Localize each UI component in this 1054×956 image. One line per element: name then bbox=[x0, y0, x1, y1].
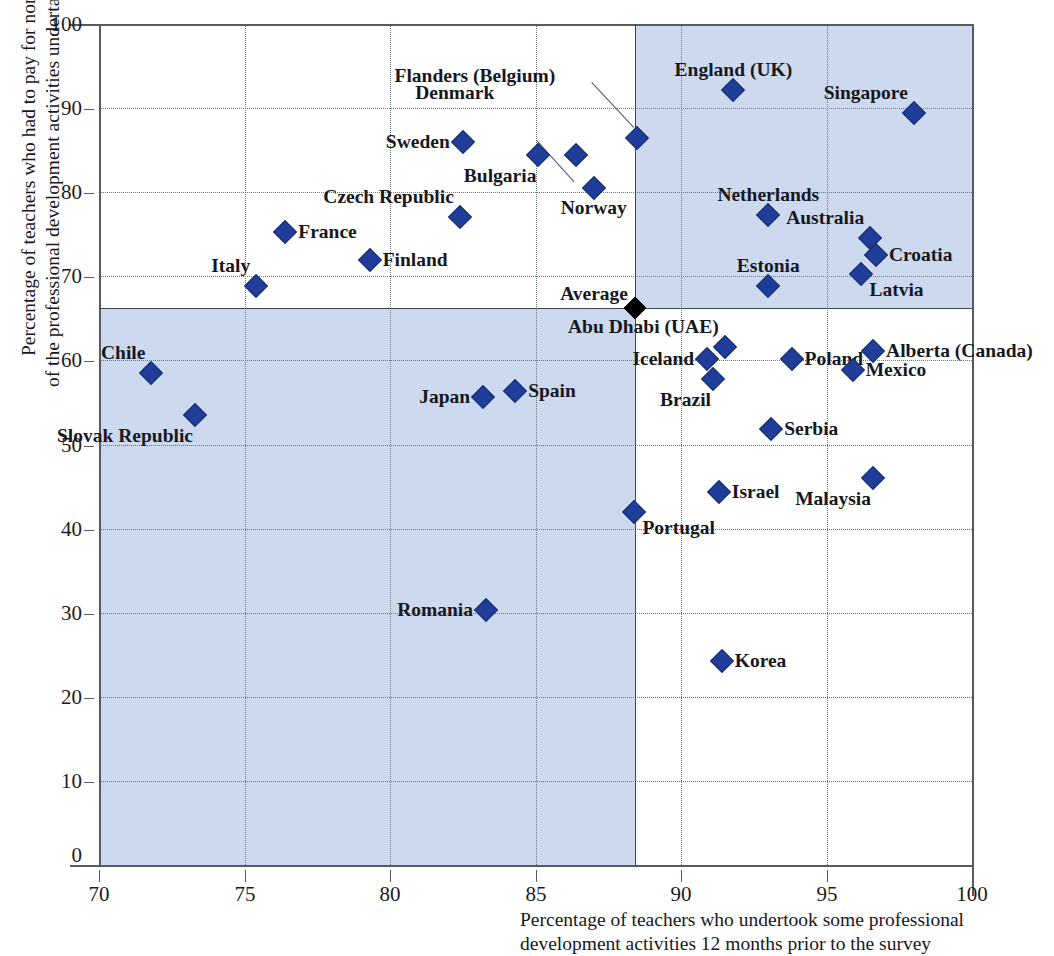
data-label-slovak-republic: Slovak Republic bbox=[57, 426, 193, 446]
y-axis-title-line1: Percentage of teachers who had to pay fo… bbox=[17, 0, 41, 356]
y-tick-30: 30 bbox=[20, 603, 82, 624]
y-tick-20-label: 20 bbox=[61, 685, 82, 709]
data-label-chile: Chile bbox=[101, 343, 145, 363]
data-label-spain: Spain bbox=[528, 381, 576, 401]
x-tick-70: 70 bbox=[59, 884, 139, 905]
x-tick-75: 75 bbox=[205, 884, 285, 905]
data-point-poland[interactable] bbox=[780, 347, 804, 371]
data-point-sweden[interactable] bbox=[451, 130, 475, 154]
data-label-portugal: Portugal bbox=[642, 518, 715, 538]
x-tick-95-label: 95 bbox=[817, 882, 838, 906]
data-point-france[interactable] bbox=[273, 220, 297, 244]
data-point-korea[interactable] bbox=[710, 649, 734, 673]
data-label-korea: Korea bbox=[735, 651, 787, 671]
y-axis-title-line2: of the professional development activiti… bbox=[41, 0, 65, 387]
data-label-france: France bbox=[298, 222, 356, 242]
data-label-czech-republic: Czech Republic bbox=[323, 188, 454, 208]
average-vertical-line bbox=[635, 24, 636, 865]
x-tick-90: 90 bbox=[641, 884, 721, 905]
y-tick-20: 20 bbox=[20, 687, 82, 708]
x-axis-title: Percentage of teachers who undertook som… bbox=[520, 908, 1020, 956]
data-label-latvia: Latvia bbox=[869, 280, 923, 300]
frame-right-line bbox=[972, 24, 974, 896]
axis-x-line bbox=[70, 865, 972, 867]
data-point-serbia[interactable] bbox=[759, 417, 783, 441]
data-label-romania: Romania bbox=[397, 600, 473, 620]
data-point-denmark[interactable] bbox=[564, 143, 588, 167]
data-label-japan: Japan bbox=[419, 388, 470, 408]
x-tick-100-label: 100 bbox=[956, 882, 988, 906]
data-point-malaysia[interactable] bbox=[861, 466, 885, 490]
data-label-bulgaria: Bulgaria bbox=[464, 166, 537, 186]
data-label-norway: Norway bbox=[561, 198, 627, 218]
x-tick-70-label: 70 bbox=[89, 882, 110, 906]
data-point-finland[interactable] bbox=[358, 248, 382, 272]
average-horizontal-line bbox=[99, 308, 972, 309]
y-tick-40-label: 40 bbox=[61, 517, 82, 541]
x-tick-90-label: 90 bbox=[671, 882, 692, 906]
x-tick-85: 85 bbox=[496, 884, 576, 905]
data-label-iceland: Iceland bbox=[632, 349, 694, 369]
frame-top-line bbox=[70, 24, 972, 26]
data-point-israel[interactable] bbox=[707, 480, 731, 504]
data-label-sweden: Sweden bbox=[386, 132, 450, 152]
data-label-england-uk: England (UK) bbox=[675, 61, 793, 81]
data-label-estonia: Estonia bbox=[737, 256, 800, 276]
data-label-abu-dhabi-uae: Abu Dhabi (UAE) bbox=[568, 317, 719, 337]
data-label-netherlands: Netherlands bbox=[717, 185, 819, 205]
data-label-mexico: Mexico bbox=[866, 360, 927, 380]
data-point-bulgaria[interactable] bbox=[526, 143, 550, 167]
leader-line-flanders bbox=[591, 82, 634, 128]
data-label-brazil: Brazil bbox=[660, 390, 711, 410]
data-label-malaysia: Malaysia bbox=[795, 489, 871, 509]
x-axis-title-line2: development activities 12 months prior t… bbox=[520, 932, 1020, 956]
data-label-israel: Israel bbox=[732, 483, 780, 503]
data-label-serbia: Serbia bbox=[784, 420, 838, 440]
y-tick-10-label: 10 bbox=[61, 769, 82, 793]
x-tick-80-label: 80 bbox=[380, 882, 401, 906]
data-point-czech-republic[interactable] bbox=[448, 205, 472, 229]
data-label-croatia: Croatia bbox=[889, 246, 953, 266]
y-tick-0: 0 bbox=[20, 845, 82, 866]
data-point-brazil[interactable] bbox=[701, 367, 725, 391]
x-axis-title-line1: Percentage of teachers who undertook som… bbox=[520, 908, 1020, 932]
data-label-singapore: Singapore bbox=[824, 83, 908, 103]
y-tick-30-label: 30 bbox=[61, 601, 82, 625]
y-tick-10: 10 bbox=[20, 771, 82, 792]
data-label-italy: Italy bbox=[211, 257, 250, 277]
data-label-australia: Australia bbox=[786, 209, 864, 229]
gridline-x-95 bbox=[827, 24, 828, 865]
average-label: Average bbox=[560, 284, 628, 304]
data-label-finland: Finland bbox=[383, 251, 448, 271]
data-label-alberta-canada: Alberta (Canada) bbox=[886, 341, 1033, 361]
x-tick-85-label: 85 bbox=[526, 882, 547, 906]
y-tick-40: 40 bbox=[20, 519, 82, 540]
x-tick-80: 80 bbox=[350, 884, 430, 905]
data-point-italy[interactable] bbox=[244, 274, 268, 298]
y-tick-0-label: 0 bbox=[72, 843, 83, 867]
x-tick-75-label: 75 bbox=[235, 882, 256, 906]
x-tick-95: 95 bbox=[787, 884, 867, 905]
data-label-flanders-belgium: Flanders (Belgium) bbox=[394, 67, 555, 87]
x-tick-100: 100 bbox=[932, 884, 1012, 905]
gridline-x-75 bbox=[245, 24, 246, 865]
gridline-x-90 bbox=[681, 24, 682, 865]
